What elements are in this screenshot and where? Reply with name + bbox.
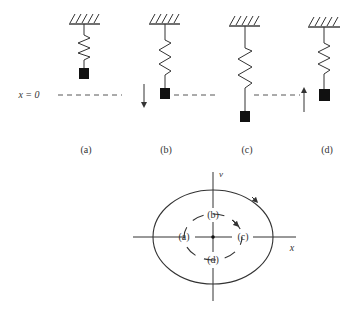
stage-b-label: (b) (160, 145, 172, 155)
spring-icon (78, 24, 90, 68)
mass-block (319, 89, 330, 101)
stage-c-label: (c) (241, 145, 252, 155)
spring-stage-a (69, 14, 100, 79)
phase-label-d: (d) (207, 255, 219, 265)
stage-a-label: (a) (80, 145, 91, 155)
spring-stage-b (144, 14, 180, 105)
ceiling-hatch-icon (69, 14, 100, 24)
phase-plot (133, 172, 296, 301)
origin-dot (211, 235, 215, 239)
diagram-graphics (0, 0, 354, 326)
mass-block (79, 68, 89, 79)
mass-block (240, 111, 250, 122)
direction-arrow-icon (252, 197, 256, 201)
stage-d-label: (d) (321, 145, 333, 155)
phase-label-a: (a) (178, 232, 189, 242)
ceiling-hatch-icon (149, 14, 180, 24)
spring-icon (238, 26, 252, 111)
phase-label-c: (c) (237, 232, 248, 242)
spring-icon (318, 27, 330, 89)
ceiling-hatch-icon (308, 17, 340, 27)
ceiling-hatch-icon (229, 16, 260, 26)
equilibrium-label: x = 0 (18, 90, 39, 100)
mass-block (160, 88, 170, 99)
v-axis-label: v (219, 170, 223, 179)
x-axis-label: x (290, 243, 294, 253)
spring-icon (159, 24, 171, 88)
spring-stage-c (229, 16, 260, 122)
spring-mass-diagram: x = 0 (a) (b) (c) (d) v x (b) (a) (c) (d… (0, 0, 354, 326)
phase-label-b: (b) (207, 210, 219, 220)
spring-stage-d (304, 17, 340, 112)
